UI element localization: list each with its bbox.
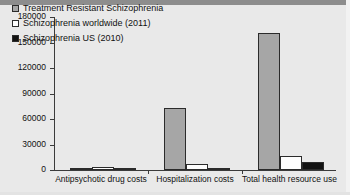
scan-bottom-edge: [0, 192, 350, 195]
category-label: Hospitalization costs: [148, 174, 242, 185]
chart-legend: Treatment Resistant SchizophreniaSchizop…: [12, 2, 163, 44]
legend-item: Schizophrenia US (2010): [12, 32, 163, 44]
legend-item-label: Schizophrenia worldwide (2011): [23, 18, 150, 29]
legend-item-label: Treatment Resistant Schizophrenia: [23, 3, 163, 14]
y-axis-tick-label: 0: [41, 164, 46, 175]
white-square-icon: [12, 20, 19, 27]
bar-chart-figure: US dollars 03000060000900001200001500001…: [0, 0, 350, 195]
bar: [302, 162, 324, 170]
y-axis-title: US dollars: [2, 62, 16, 132]
y-axis-tick-label: 120000: [18, 62, 46, 73]
y-axis-tick-label: 60000: [22, 113, 46, 124]
y-axis-tick: 30000: [50, 145, 54, 146]
y-axis-tick-label: 90000: [22, 88, 46, 99]
bar: [186, 164, 208, 170]
x-axis-line: [54, 170, 336, 171]
y-axis-tick: 120000: [50, 68, 54, 69]
y-axis-tick-label: 30000: [22, 139, 46, 150]
bar: [208, 168, 230, 170]
category-label: Antipsychotic drug costs: [54, 174, 148, 185]
y-axis-tick: 90000: [50, 94, 54, 95]
legend-item-label: Schizophrenia US (2010): [23, 33, 124, 44]
bar: [258, 33, 280, 170]
legend-item: Schizophrenia worldwide (2011): [12, 17, 163, 29]
y-axis-tick: 0: [50, 170, 54, 171]
bar: [280, 156, 302, 170]
bar: [70, 168, 92, 170]
category-label: Total health resource use: [242, 174, 336, 185]
bar: [114, 168, 136, 170]
legend-item: Treatment Resistant Schizophrenia: [12, 2, 163, 14]
gray-square-icon: [12, 5, 19, 12]
black-square-icon: [12, 35, 19, 42]
bar: [92, 167, 114, 170]
y-axis-tick: 60000: [50, 119, 54, 120]
scan-right-edge: [346, 0, 350, 195]
bar: [164, 108, 186, 170]
